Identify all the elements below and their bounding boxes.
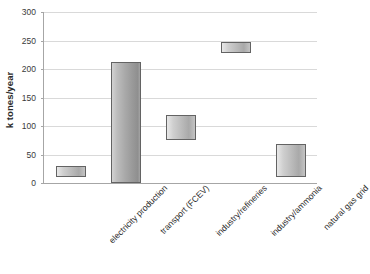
- x-category-label: industry/refineries: [214, 183, 269, 238]
- x-axis-category-labels: electricity productiontransport (FCEV)in…: [43, 183, 317, 253]
- y-tick-mark: [41, 41, 44, 42]
- y-tick-mark: [41, 98, 44, 99]
- x-category-label: industry/ammonia: [269, 183, 324, 238]
- y-tick-label: 150: [22, 93, 36, 102]
- gridline: [44, 98, 317, 99]
- plot-area: [43, 12, 317, 183]
- x-category-label: natural gas grid: [321, 183, 370, 232]
- gridline: [44, 41, 317, 42]
- y-tick-label: 300: [22, 8, 36, 17]
- bar: [276, 144, 306, 177]
- bar: [221, 42, 251, 53]
- y-tick-mark: [41, 126, 44, 127]
- y-tick-label: 250: [22, 36, 36, 45]
- bar: [56, 166, 86, 177]
- y-tick-mark: [41, 155, 44, 156]
- bar: [111, 62, 141, 183]
- y-tick-label: 200: [22, 65, 36, 74]
- y-tick-label: 50: [27, 150, 36, 159]
- bar: [166, 115, 196, 141]
- gridline: [44, 69, 317, 70]
- y-tick-label: 0: [31, 179, 36, 188]
- x-category-label: electricity production: [107, 183, 169, 245]
- y-axis-tick-labels: 050100150200250300: [0, 12, 40, 183]
- y-tick-mark: [41, 12, 44, 13]
- gridline: [44, 12, 317, 13]
- y-tick-mark: [41, 69, 44, 70]
- y-tick-label: 100: [22, 122, 36, 131]
